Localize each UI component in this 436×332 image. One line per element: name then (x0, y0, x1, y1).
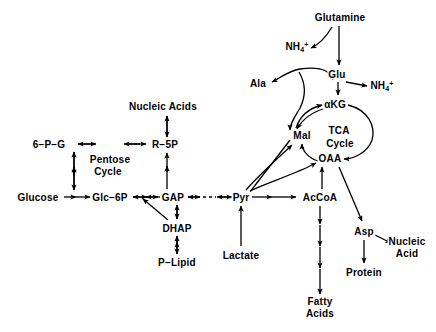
node-ammonium-left: NH4+ (284, 39, 309, 55)
node-accoa: AcCoA (302, 192, 338, 203)
node-akg: αKG (323, 99, 347, 110)
node-nucleic-acids: Nucleic Acids (128, 101, 198, 112)
edge-glutamine-nh4 (311, 27, 332, 48)
edge-pyr-oaa (250, 163, 316, 191)
label-tca: TCA (327, 125, 350, 136)
node-6-p-g: 6−P−G (32, 139, 67, 150)
node-lactate: Lactate (222, 250, 260, 261)
edge-tca-arc-oaa-mal (302, 144, 318, 161)
node-oaa: OAA (318, 153, 343, 164)
ammonium-right-text: NH (370, 80, 385, 91)
ammonium-left-sup: + (304, 41, 308, 48)
ammonium-left-text: NH (285, 41, 300, 52)
node-asp: Asp (353, 226, 375, 237)
node-gap: GAP (161, 192, 185, 203)
pathway-edges-layer (0, 0, 436, 332)
pathway-diagram: Glucose Glc−6P 6−P−G Pentose Cycle R−5P … (0, 0, 436, 332)
ammonium-right-sup: + (389, 80, 393, 87)
node-glutamine: Glutamine (314, 12, 367, 23)
node-dhap: DHAP (161, 223, 192, 234)
node-nucleic-acid: Nucleic Acid (388, 236, 427, 259)
node-glucose: Glucose (17, 192, 60, 203)
node-p-lipid: P−Lipid (157, 257, 197, 268)
label-tca-cycle: Cycle (325, 138, 355, 149)
node-pyr: Pyr (232, 192, 251, 203)
node-glc6p: Glc−6P (91, 192, 128, 203)
label-pentose-cycle: Cycle (93, 166, 123, 177)
edge-mal-outflow (250, 140, 290, 192)
node-fatty-acids: Fatty Acids (305, 296, 335, 319)
node-ala: Ala (249, 78, 267, 89)
edge-glu-nh4 (346, 82, 367, 86)
node-ammonium-right: NH4+ (369, 78, 394, 94)
node-r-5p: R−5P (151, 139, 179, 150)
label-pentose: Pentose (89, 154, 131, 165)
node-mal: Mal (292, 130, 311, 141)
node-glu: Glu (327, 69, 346, 80)
node-protein: Protein (345, 267, 383, 278)
edge-oaa-asp (339, 167, 362, 221)
